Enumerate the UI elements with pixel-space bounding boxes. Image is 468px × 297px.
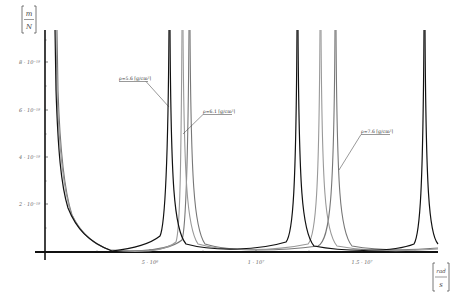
x-axis-unit: rad s — [433, 263, 449, 291]
y-unit-denominator: N — [25, 23, 33, 31]
annotation-rho-5.6: ρ=5.6 [g/cm³] — [119, 76, 169, 107]
x-unit-numerator: rad — [436, 268, 446, 274]
annotation-label: ρ=6.1 [g/cm³] — [203, 109, 235, 115]
annotation-label: ρ=7.6 [g/cm³] — [361, 129, 393, 135]
y-axis-unit: m N — [22, 6, 36, 33]
y-tick-label-8e-19: 8 · 10⁻¹⁹ — [19, 59, 40, 65]
x-unit-denominator: s — [439, 281, 443, 289]
x-tick-label-1e7: 1 · 10⁷ — [248, 259, 264, 265]
series-rho-6.1 — [56, 30, 438, 251]
series-rho-5.6 — [55, 30, 438, 251]
annotation-label: ρ=5.6 [g/cm³] — [119, 76, 151, 82]
y-tick-label-2e-19: 2 · 10⁻¹⁹ — [18, 201, 40, 207]
frequency-response-chart: m N rad s 8 · 10⁻¹⁹ 6 · 10⁻¹⁹ 4 · 10⁻¹⁹ … — [0, 0, 468, 297]
y-unit-numerator: m — [26, 10, 33, 18]
y-tick-label-4e-19: 4 · 10⁻¹⁹ — [18, 154, 40, 160]
x-tick-label-1.5e7: 1.5 · 10⁷ — [351, 259, 372, 265]
x-tick-label-5e6: 5 · 10⁶ — [142, 259, 158, 265]
series-rho-7.6 — [57, 30, 438, 251]
y-tick-label-6e-19: 6 · 10⁻¹⁹ — [19, 107, 40, 113]
annotation-rho-7.6: ρ=7.6 [g/cm³] — [339, 129, 393, 170]
